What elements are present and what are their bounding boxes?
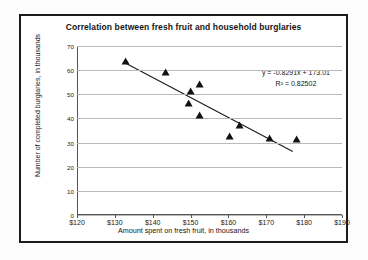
y-tick-label: 0 [71,212,74,219]
data-point-marker [196,112,204,119]
gridline-y [77,70,342,71]
x-tick-label: $170 [258,219,274,226]
x-tick-label: $160 [221,219,237,226]
data-point-marker [186,88,194,95]
x-tick-mark [304,215,305,218]
chart-container: Correlation between fresh fruit and hous… [19,14,348,243]
gridline-y [77,215,342,216]
y-tick-label: 40 [67,115,74,122]
x-tick-label: $180 [296,219,312,226]
x-tick-mark [77,215,78,218]
x-tick-mark [266,215,267,218]
gridline-y [77,94,342,95]
x-tick-label: $190 [334,219,350,226]
x-axis-title: Amount spent on fresh fruit, in thousand… [21,226,346,235]
x-tick-mark [228,215,229,218]
plot-area: y = -0.8291x + 173.01 R² = 0.82502 01020… [77,46,342,215]
data-point-marker [292,136,300,143]
gridline-y [77,118,342,119]
chart-title: Correlation between fresh fruit and hous… [21,22,346,32]
x-tick-label: $130 [107,219,123,226]
x-tick-label: $140 [145,219,161,226]
gridline-y [77,143,342,144]
x-tick-label: $150 [183,219,199,226]
gridline-y [77,191,342,192]
data-point-marker [266,135,274,142]
data-point-marker [184,100,192,107]
x-tick-mark [153,215,154,218]
x-tick-mark [115,215,116,218]
y-tick-label: 70 [67,43,74,50]
y-axis-title: Number of completed burglaries, in thous… [34,21,41,191]
data-point-marker [196,80,204,87]
r-squared-value: R² = 0.82502 [262,79,330,90]
gridline-y [77,167,342,168]
y-tick-label: 20 [67,163,74,170]
y-tick-label: 10 [67,187,74,194]
y-tick-label: 30 [67,139,74,146]
data-point-marker [235,121,243,128]
regression-annotation: y = -0.8291x + 173.01 R² = 0.82502 [262,68,330,90]
x-tick-label: $120 [69,219,85,226]
y-tick-label: 50 [67,91,74,98]
y-tick-label: 60 [67,67,74,74]
data-point-marker [162,68,170,75]
gridline-y [77,46,342,47]
data-point-marker [122,57,130,64]
x-tick-mark [342,215,343,218]
data-point-marker [226,132,234,139]
x-tick-mark [191,215,192,218]
